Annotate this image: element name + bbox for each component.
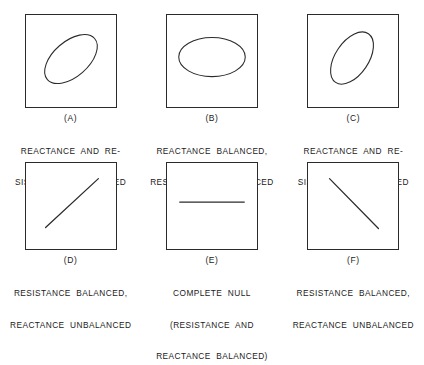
trace-tilted-ellipse-right-icon xyxy=(26,15,116,107)
caption-line: COMPLETE NULL xyxy=(156,288,268,299)
caption-line: REACTANCE UNBALANCED xyxy=(10,320,131,331)
trace-tilted-ellipse-steep-icon xyxy=(308,15,398,107)
panel-label-d: (D) xyxy=(64,255,78,265)
panel-e: (E) COMPLETE NULL (RESISTANCE AND REACTA… xyxy=(141,152,282,307)
panel-caption-e: COMPLETE NULL (RESISTANCE AND REACTANCE … xyxy=(156,267,268,365)
scope-screen-b xyxy=(166,14,258,108)
trace-diagonal-line-up-icon xyxy=(26,163,116,249)
panel-label-a: (A) xyxy=(64,113,77,123)
panel-f: (F) RESISTANCE BALANCED, REACTANCE UNBAL… xyxy=(283,152,424,307)
scope-screen-d xyxy=(25,162,117,250)
caption-line: REACTANCE BALANCED) xyxy=(156,351,268,362)
panel-caption-f: RESISTANCE BALANCED, REACTANCE UNBALANCE… xyxy=(293,267,414,351)
scope-screen-a xyxy=(25,14,117,108)
caption-line: (RESISTANCE AND xyxy=(156,320,268,331)
scope-screen-c xyxy=(307,14,399,108)
caption-line: RESISTANCE BALANCED, xyxy=(293,288,414,299)
panel-a: (A) REACTANCE AND RE- SISTANCE UNBALANCE… xyxy=(0,0,141,152)
trace-horizontal-ellipse-icon xyxy=(167,15,257,107)
trace-diagonal-line-down-icon xyxy=(308,163,398,249)
panel-label-e: (E) xyxy=(205,255,218,265)
caption-line: REACTANCE UNBALANCED xyxy=(293,320,414,331)
scope-screen-f xyxy=(307,162,399,250)
panel-c: (C) REACTANCE AND RE- SISTANCE UNBALANCE… xyxy=(283,0,424,152)
trace-horizontal-line-icon xyxy=(167,163,257,249)
panel-d: (D) RESISTANCE BALANCED, REACTANCE UNBAL… xyxy=(0,152,141,307)
scope-screen-e xyxy=(166,162,258,250)
panel-label-f: (F) xyxy=(347,255,360,265)
panel-label-b: (B) xyxy=(205,113,218,123)
caption-line: RESISTANCE BALANCED, xyxy=(10,288,131,299)
panel-label-c: (C) xyxy=(347,113,361,123)
panel-b: (B) REACTANCE BALANCED, RESISTANCE UNBAL… xyxy=(141,0,282,152)
panel-caption-d: RESISTANCE BALANCED, REACTANCE UNBALANCE… xyxy=(10,267,131,351)
